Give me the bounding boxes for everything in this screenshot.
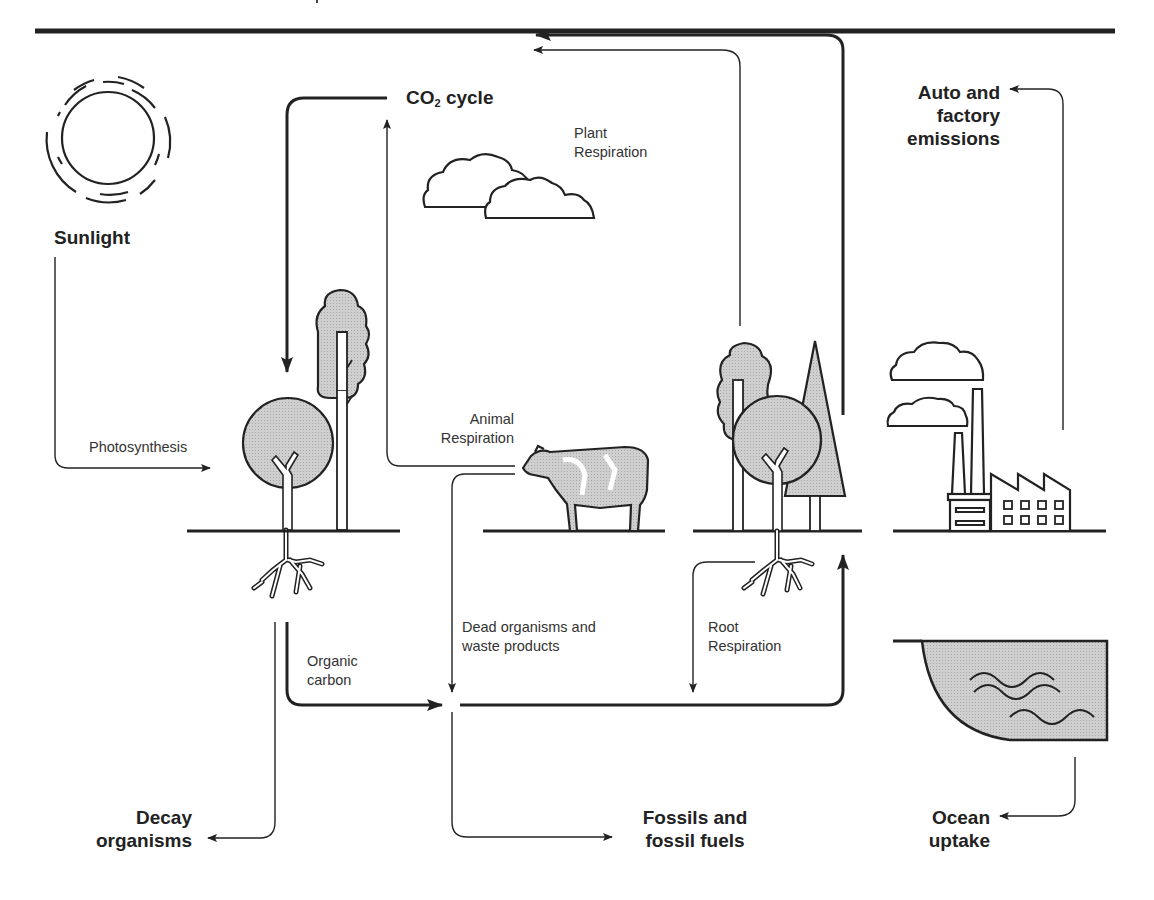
sunlight-label: Sunlight [54, 226, 130, 249]
decay-arrow [208, 622, 275, 838]
sun-icon [47, 77, 171, 202]
label-line: emissions [900, 127, 1000, 150]
fossils-arrow [452, 712, 612, 837]
label-line: uptake [920, 829, 990, 852]
photosynthesis-arrow [55, 257, 210, 468]
ocean-uptake-arrow [1000, 757, 1075, 816]
label-line: Ocean [920, 806, 990, 829]
label-line: Respiration [708, 637, 781, 656]
label-line: Animal [410, 410, 514, 429]
auto-factory-emissions-label: Auto and factory emissions [900, 81, 1000, 150]
label-line: Respiration [410, 429, 514, 448]
co2-suffix: cycle [441, 87, 494, 108]
label-line: carbon [307, 671, 358, 690]
animal-respiration-label: Animal Respiration [410, 410, 514, 448]
label-line: Respiration [574, 143, 647, 162]
label-line: organisms [90, 829, 192, 852]
label-line: Auto and [900, 81, 1000, 104]
label-line: Organic [307, 652, 358, 671]
trees-to-co2-arrow [536, 35, 843, 415]
label-line: Decay [90, 806, 192, 829]
co2-prefix: CO [406, 87, 435, 108]
root-respiration-label: Root Respiration [708, 618, 781, 656]
carbon-cycle-diagram: Sunlight CO2 cycle Auto and factory emis… [0, 0, 1154, 900]
plant-respiration-label: Plant Respiration [574, 124, 647, 162]
cow-icon [523, 446, 648, 531]
label-line: Plant [574, 124, 647, 143]
decay-organisms-label: Decay organisms [90, 806, 192, 852]
dead-organisms-arrow [452, 474, 515, 692]
label-line: factory [900, 104, 1000, 127]
tree-icon [243, 290, 369, 596]
plant-respiration-arrow [534, 50, 740, 326]
cloud-icon [424, 154, 594, 218]
factory-icon [948, 389, 1070, 531]
tree-icon [717, 341, 845, 594]
label-line: waste products [462, 637, 596, 656]
label-line: Root [708, 618, 781, 637]
cloud-icon [888, 342, 984, 426]
dead-organisms-label: Dead organisms and waste products [462, 618, 596, 656]
fossils-label: Fossils and fossil fuels [620, 806, 770, 852]
ocean-icon [893, 641, 1107, 740]
label-line: Dead organisms and [462, 618, 596, 637]
label-line: Fossils and [620, 806, 770, 829]
label-line: fossil fuels [620, 829, 770, 852]
ocean-uptake-label: Ocean uptake [920, 806, 990, 852]
organic-carbon-label: Organic carbon [307, 652, 358, 690]
co2-cycle-label: CO2 cycle [406, 86, 493, 115]
factory-emissions-arrow [1010, 89, 1063, 430]
photosynthesis-label: Photosynthesis [89, 438, 187, 457]
